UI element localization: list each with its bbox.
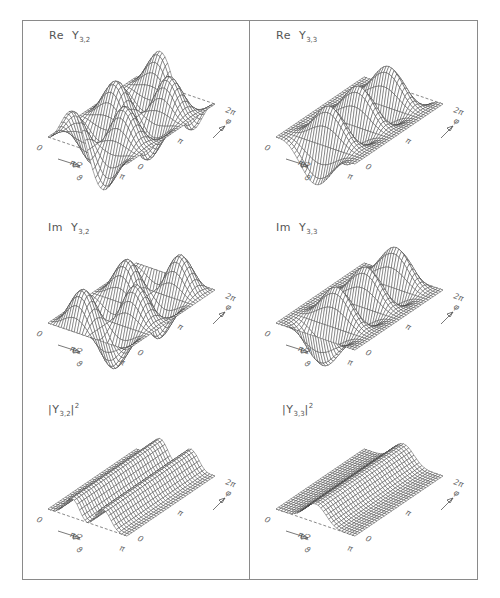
theta-symbol: ϑ xyxy=(75,545,84,555)
theta-label-0: 0 xyxy=(263,143,272,153)
phi-label-2pi: 2π xyxy=(452,477,465,489)
theta-label-0: 0 xyxy=(35,515,44,525)
phi-label-2pi: 2π xyxy=(224,291,237,303)
phi-label-0: 0 xyxy=(364,348,373,358)
surface-plot: 0π/2π0π2πϑφ xyxy=(22,206,249,392)
surface-plot: 0π/2π0π2πϑφ xyxy=(250,20,477,206)
surface-plot: 0π/2π0π2πϑφ xyxy=(22,20,249,206)
theta-label-0: 0 xyxy=(263,329,272,339)
theta-symbol: ϑ xyxy=(303,545,312,555)
theta-label-0: 0 xyxy=(35,329,44,339)
theta-label-pi: π xyxy=(346,357,354,367)
phi-label-0: 0 xyxy=(364,534,373,544)
panel-re-y32: ReY3,2 0π/2π0π2πϑφ xyxy=(22,20,249,206)
theta-label-pi-half: π/2 xyxy=(69,344,84,357)
phi-label-2pi: 2π xyxy=(452,105,465,117)
panel-im-y32: ImY3,2 0π/2π0π2πϑφ xyxy=(22,206,249,392)
phi-label-pi: π xyxy=(404,508,413,518)
phi-symbol: φ xyxy=(452,488,462,499)
theta-label-pi: π xyxy=(346,171,354,181)
phi-label-pi: π xyxy=(176,508,185,518)
phi-symbol: φ xyxy=(224,488,234,499)
theta-label-0: 0 xyxy=(263,515,272,525)
phi-label-2pi: 2π xyxy=(452,291,465,303)
theta-label-pi: π xyxy=(118,543,126,553)
theta-symbol: ϑ xyxy=(303,359,312,369)
panel-re-y33: ReY3,3 0π/2π0π2πϑφ xyxy=(250,20,477,206)
theta-label-0: 0 xyxy=(35,143,44,153)
phi-label-0: 0 xyxy=(136,348,145,358)
theta-label-pi-half: π/2 xyxy=(297,530,312,543)
surface-plot: 0π/2π0π2πϑφ xyxy=(22,392,249,578)
wireframe-mesh xyxy=(276,444,443,537)
panel-abs2-y32: |Y3,2|2 0π/2π0π2πϑφ xyxy=(22,392,249,578)
phi-label-pi: π xyxy=(404,322,413,332)
phi-label-2pi: 2π xyxy=(224,105,237,117)
phi-symbol: φ xyxy=(224,302,234,313)
surface-plot: 0π/2π0π2πϑφ xyxy=(250,392,477,578)
phi-label-0: 0 xyxy=(136,162,145,172)
phi-label-0: 0 xyxy=(364,162,373,172)
theta-symbol: ϑ xyxy=(75,173,84,183)
panel-abs2-y33: |Y3,3|2 0π/2π0π2πϑφ xyxy=(250,392,477,578)
phi-label-pi: π xyxy=(176,136,185,146)
panel-im-y33: ImY3,3 0π/2π0π2πϑφ xyxy=(250,206,477,392)
theta-label-pi-half: π/2 xyxy=(69,530,84,543)
phi-label-pi: π xyxy=(176,322,185,332)
theta-label-pi: π xyxy=(346,543,354,553)
surface-plot: 0π/2π0π2πϑφ xyxy=(250,206,477,392)
phi-symbol: φ xyxy=(452,116,462,127)
phi-symbol: φ xyxy=(452,302,462,313)
theta-label-pi: π xyxy=(118,171,126,181)
theta-label-pi-half: π/2 xyxy=(69,158,84,171)
wireframe-mesh xyxy=(48,51,215,190)
phi-label-pi: π xyxy=(404,136,413,146)
wireframe-mesh xyxy=(48,438,215,536)
phi-label-2pi: 2π xyxy=(224,477,237,489)
theta-symbol: ϑ xyxy=(75,359,84,369)
phi-label-0: 0 xyxy=(136,534,145,544)
phi-symbol: φ xyxy=(224,116,234,127)
